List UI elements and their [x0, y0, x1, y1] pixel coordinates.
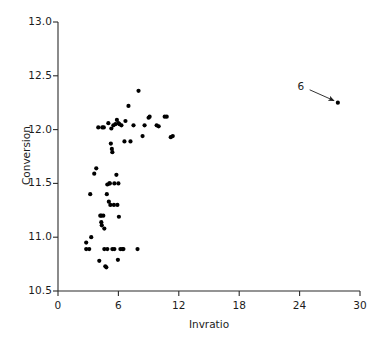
- x-tick-label: 18: [219, 299, 259, 311]
- data-point: [126, 104, 130, 108]
- data-point: [148, 115, 152, 119]
- data-point: [105, 192, 109, 196]
- data-point: [117, 215, 121, 219]
- x-tick-label: 6: [98, 299, 138, 311]
- annotation-arrow: [310, 90, 334, 101]
- x-tick-label: 0: [38, 299, 78, 311]
- data-point: [84, 240, 88, 244]
- data-point: [87, 247, 91, 251]
- x-tick-label: 24: [280, 299, 320, 311]
- data-point: [112, 181, 116, 185]
- data-point: [140, 134, 144, 138]
- data-point: [89, 235, 93, 239]
- data-point: [106, 121, 110, 125]
- data-point: [88, 192, 92, 196]
- data-point: [92, 172, 96, 176]
- data-point: [96, 125, 100, 129]
- x-axis-ticks: [58, 291, 360, 296]
- data-point: [128, 139, 132, 143]
- x-axis-title: Invratio: [149, 318, 269, 330]
- data-point: [112, 247, 116, 251]
- y-axis-ticks: [53, 22, 58, 291]
- data-point: [108, 181, 112, 185]
- y-tick-label: 10.5: [10, 284, 52, 296]
- data-point: [171, 134, 175, 138]
- data-point: [157, 124, 161, 128]
- x-tick-label: 12: [159, 299, 199, 311]
- data-point: [114, 173, 118, 177]
- data-point: [116, 258, 120, 262]
- data-point: [101, 214, 105, 218]
- y-tick-label: 12.5: [10, 69, 52, 81]
- data-point: [109, 141, 113, 145]
- data-point: [165, 115, 169, 119]
- data-point: [142, 123, 146, 127]
- annotation-label-6: 6: [298, 80, 305, 92]
- data-point: [102, 226, 106, 230]
- y-tick-label: 11.0: [10, 230, 52, 242]
- annotation-arrow-group: [310, 90, 334, 101]
- data-point: [94, 166, 98, 170]
- data-point-group: [84, 89, 340, 270]
- data-point: [97, 259, 101, 263]
- data-point: [122, 139, 126, 143]
- data-point: [336, 101, 340, 105]
- data-point: [102, 125, 106, 129]
- data-point: [116, 181, 120, 185]
- data-point: [115, 203, 119, 207]
- y-axis-title: Conversion: [20, 126, 32, 185]
- data-point: [123, 119, 127, 123]
- data-point: [104, 265, 108, 269]
- x-tick-label: 30: [340, 299, 380, 311]
- y-tick-label: 13.0: [10, 15, 52, 27]
- data-point: [110, 150, 114, 154]
- plot-canvas: [0, 0, 385, 342]
- data-point: [131, 123, 135, 127]
- scatter-plot-figure: 10.511.011.512.012.513.0 0612182430 Conv…: [0, 0, 385, 342]
- data-point: [136, 89, 140, 93]
- data-point: [121, 247, 125, 251]
- data-point: [105, 247, 109, 251]
- data-point: [119, 123, 123, 127]
- data-point: [135, 247, 139, 251]
